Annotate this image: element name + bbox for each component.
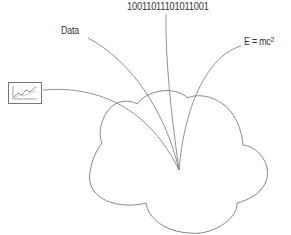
data-label: Data — [61, 25, 79, 36]
formula-label: E = mc2 — [244, 36, 274, 47]
connector-formula — [179, 46, 241, 170]
formula-base: E = mc — [244, 36, 271, 47]
binary-label: 10011011101011001 — [127, 0, 209, 12]
connector-chart — [43, 89, 179, 170]
line-chart-icon — [8, 82, 42, 104]
diagram-stage: 10011011101011001 Data E = mc2 — [0, 0, 291, 235]
connector-data — [88, 38, 179, 170]
cloud-shape — [90, 91, 268, 234]
formula-exponent: 2 — [271, 35, 275, 44]
